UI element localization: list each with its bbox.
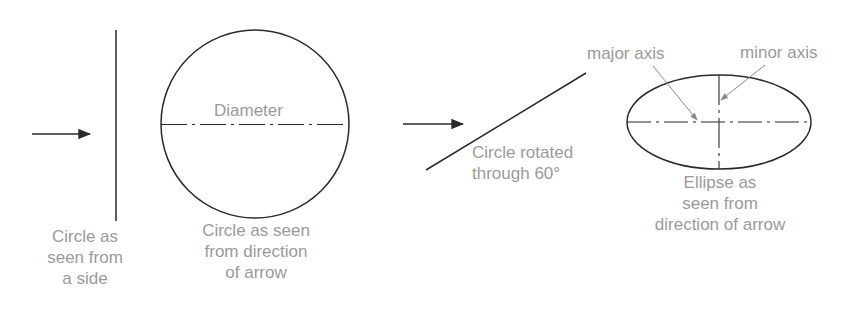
caption-side-view: Circle as seen from a side bbox=[30, 226, 140, 289]
diameter-label: Diameter bbox=[214, 100, 283, 121]
caption-ellipse: Ellipse as seen from direction of arrow bbox=[640, 172, 800, 235]
minor-axis-label: minor axis bbox=[740, 42, 817, 63]
caption-circle-view: Circle as seen from direction of arrow bbox=[186, 220, 326, 283]
major-axis-label: major axis bbox=[587, 43, 664, 64]
major-axis-leader bbox=[653, 66, 697, 120]
caption-rotated: Circle rotated through 60° bbox=[472, 142, 573, 184]
minor-axis-leader bbox=[721, 65, 765, 100]
